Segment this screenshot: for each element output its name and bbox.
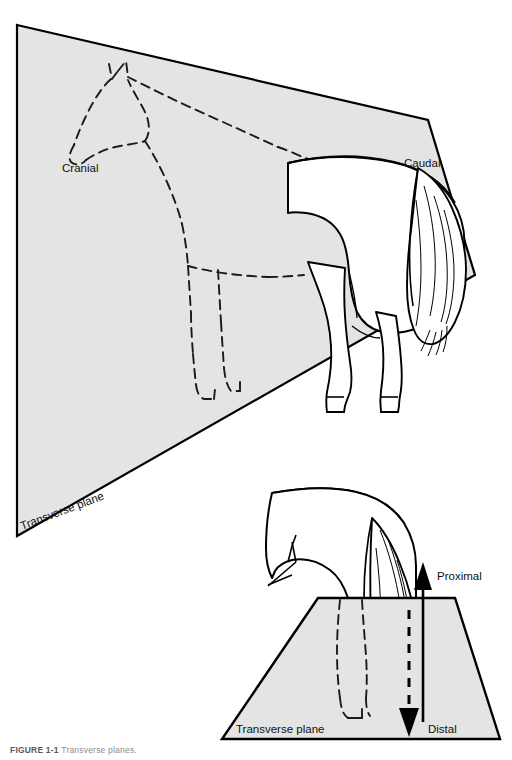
label-distal: Distal xyxy=(428,723,457,735)
figure-caption: FIGURE 1-1 Transverse planes. xyxy=(10,745,137,755)
lower-panel: Proximal Distal Transverse plane xyxy=(222,488,500,739)
label-cranial: Cranial xyxy=(62,162,98,174)
label-proximal: Proximal xyxy=(437,570,482,582)
anatomical-diagram: Cranial Caudal Transverse plane xyxy=(0,0,512,760)
label-caudal: Caudal xyxy=(404,157,440,169)
figure-number: FIGURE 1-1 xyxy=(10,745,59,755)
upper-panel: Cranial Caudal Transverse plane xyxy=(17,25,475,536)
figure-caption-text: Transverse planes. xyxy=(61,745,137,755)
horse-tail xyxy=(407,168,466,344)
label-transverse-plane-lower: Transverse plane xyxy=(236,723,324,735)
figure-root: Cranial Caudal Transverse plane xyxy=(0,0,512,760)
